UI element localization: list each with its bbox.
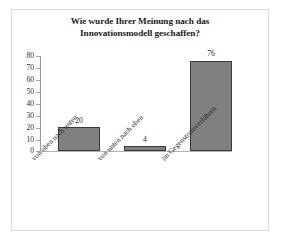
bar-value-label: 4 [124, 136, 166, 144]
y-tick-label-40: 40 [12, 100, 34, 108]
bar-von-unten-nach-oben[interactable] [124, 146, 166, 151]
y-tick-label-50: 50 [12, 88, 34, 96]
x-axis-baseline [36, 151, 232, 152]
chart-figure: Wie wurde Ihrer Meinung nach das Innovat… [0, 0, 286, 250]
y-tick-mark [36, 80, 40, 81]
y-tick-label-10: 10 [12, 136, 34, 144]
y-tick-label-80: 80 [12, 52, 34, 60]
y-tick-label-60: 60 [12, 76, 34, 84]
y-tick-mark [36, 68, 40, 69]
y-axis-line [40, 56, 41, 152]
chart-title: Wie wurde Ihrer Meinung nach das Innovat… [22, 16, 258, 39]
y-tick-mark [36, 116, 40, 117]
y-tick-mark [36, 140, 40, 141]
y-tick-mark [36, 56, 40, 57]
y-tick-label-30: 30 [12, 112, 34, 120]
y-tick-mark [36, 104, 40, 105]
chart-title-line-1: Wie wurde Ihrer Meinung nach das [22, 16, 258, 28]
y-tick-mark [36, 92, 40, 93]
bar-value-label: 76 [190, 50, 232, 58]
y-tick-label-70: 70 [12, 64, 34, 72]
y-tick-mark [36, 128, 40, 129]
chart-title-line-2: Innovationsmodell geschaffen? [22, 28, 258, 40]
y-tick-label-20: 20 [12, 124, 34, 132]
